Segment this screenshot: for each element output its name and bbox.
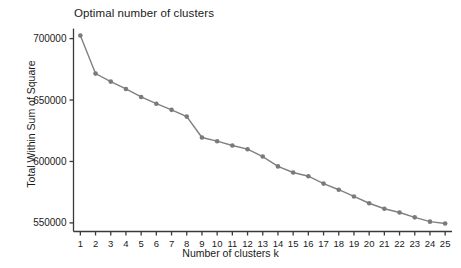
x-tick-label: 3	[108, 238, 113, 249]
data-point	[184, 114, 189, 119]
x-tick-label: 21	[379, 238, 390, 249]
data-point	[124, 87, 129, 92]
x-tick-label: 20	[364, 238, 375, 249]
x-tick-label: 10	[212, 238, 223, 249]
x-tick-label: 4	[123, 238, 128, 249]
x-tick-label: 11	[227, 238, 237, 249]
x-tick-label: 1	[78, 238, 83, 249]
x-tick-label: 13	[257, 238, 268, 249]
x-tick-label: 12	[242, 238, 253, 249]
x-tick-label: 19	[349, 238, 360, 249]
x-tick-label: 5	[138, 238, 143, 249]
data-point	[78, 33, 83, 38]
y-tick-label: 600000	[33, 156, 67, 167]
series-line	[80, 36, 445, 224]
x-tick-label: 22	[394, 238, 405, 249]
data-point	[215, 139, 220, 144]
x-tick-label: 15	[288, 238, 299, 249]
data-point	[260, 154, 265, 159]
data-point	[108, 79, 113, 84]
x-tick-label: 2	[93, 238, 98, 249]
x-tick-label: 7	[169, 238, 174, 249]
data-point	[306, 174, 311, 179]
data-point	[276, 164, 281, 169]
x-tick-label: 24	[425, 238, 436, 249]
y-axis: 550000600000650000700000	[33, 29, 73, 232]
x-tick-label: 18	[333, 238, 344, 249]
x-tick-label: 6	[154, 238, 159, 249]
x-tick-label: 14	[273, 238, 284, 249]
y-tick-label: 550000	[33, 217, 67, 228]
plot-area: 550000600000650000700000 123456789101112…	[0, 0, 461, 268]
data-point	[367, 201, 372, 206]
x-tick-label: 17	[318, 238, 329, 249]
x-axis: 1234567891011121314151617181920212223242…	[74, 232, 453, 249]
data-point	[382, 206, 387, 211]
x-tick-label: 23	[409, 238, 420, 249]
data-point	[139, 95, 144, 100]
data-point	[230, 143, 235, 148]
data-point	[412, 215, 417, 220]
data-point	[291, 170, 296, 175]
x-tick-label: 16	[303, 238, 314, 249]
x-tick-label: 8	[184, 238, 189, 249]
data-point	[93, 71, 98, 76]
x-tick-label: 9	[199, 238, 204, 249]
data-series	[78, 33, 447, 226]
y-tick-label: 650000	[33, 95, 67, 106]
data-point	[352, 194, 357, 199]
x-tick-label: 25	[440, 238, 451, 249]
y-tick-label: 700000	[33, 33, 67, 44]
elbow-plot-chart: Optimal number of clusters Total Within …	[0, 0, 461, 268]
data-point	[428, 219, 433, 224]
data-point	[200, 135, 205, 140]
data-point	[154, 101, 159, 106]
data-point	[336, 187, 341, 192]
data-point	[443, 221, 448, 226]
data-point	[321, 181, 326, 186]
data-point	[169, 108, 174, 113]
data-point	[397, 210, 402, 215]
data-point	[245, 147, 250, 152]
